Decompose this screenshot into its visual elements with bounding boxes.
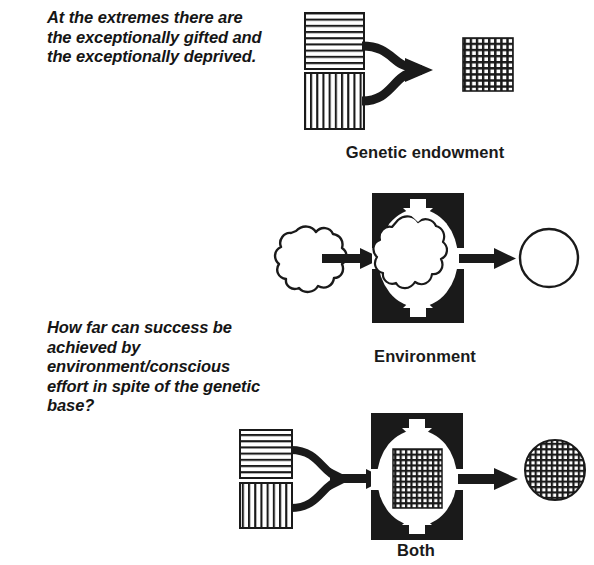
node-output-circle-environment [520,229,578,287]
panel-environment [275,193,578,323]
node-grid-square-inside-box-both [393,449,442,508]
node-vertical-striped-square-both [240,483,292,528]
diagram-artwork [0,0,594,565]
node-vertical-striped-square-genetic [305,73,364,129]
node-black-box-both [371,413,463,540]
node-grid-circle-both [525,440,585,500]
figure-root: At the extremes there are the exceptiona… [0,0,594,565]
node-grid-square-genetic [463,38,513,91]
panel-both [240,413,585,540]
connector-arrow-out-of-box-both [458,468,518,490]
node-horizontal-striped-square-genetic [305,13,364,69]
node-black-box-environment [372,193,464,323]
connector-merging-arrow-genetic [362,46,433,101]
connector-arrow-out-of-box-environment [459,248,516,269]
panel-genetic-endowment [305,13,513,129]
node-horizontal-striped-square-both [240,430,292,478]
